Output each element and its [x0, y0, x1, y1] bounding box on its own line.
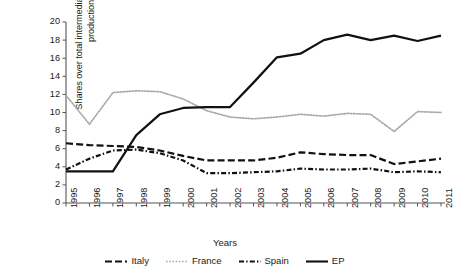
legend-item-italy: Italy	[105, 256, 148, 266]
legend-swatch-ep	[306, 257, 328, 266]
legend-item-france: France	[166, 256, 222, 266]
axis-lines	[63, 22, 446, 207]
x-axis-title: Years	[0, 237, 450, 248]
legend-swatch-spain	[239, 257, 261, 266]
series-lines	[66, 35, 441, 173]
legend-label-italy: Italy	[131, 256, 148, 266]
legend-label-spain: Spain	[265, 256, 289, 266]
series-line-ep	[66, 35, 441, 172]
legend-swatch-france	[166, 257, 188, 266]
legend-item-spain: Spain	[239, 256, 289, 266]
x-axis-title-text: Years	[213, 237, 237, 248]
legend-swatch-italy	[105, 257, 127, 266]
legend-label-ep: EP	[332, 256, 345, 266]
series-line-italy	[66, 143, 441, 164]
series-line-france	[66, 91, 441, 132]
legend-item-ep: EP	[306, 256, 345, 266]
legend-label-france: France	[192, 256, 222, 266]
chart-legend: Italy France Spain EP	[0, 256, 450, 266]
